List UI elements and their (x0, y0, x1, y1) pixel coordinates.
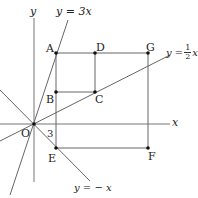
point-O (32, 122, 36, 126)
line-label-y-neg-x: y = − x (74, 183, 112, 193)
half-x-variable: x (192, 48, 198, 58)
x-axis-label: x (172, 117, 178, 128)
line-label-y-half-x: y = 1 2 x (166, 44, 198, 61)
fraction-denominator: 2 (185, 53, 190, 61)
coordinate-3-label: 3 (47, 129, 53, 139)
line-y-3x (10, 20, 68, 195)
origin-label: O (21, 128, 30, 139)
point-label-E: E (48, 153, 56, 164)
point-label-F: F (148, 151, 156, 162)
point-B (54, 90, 58, 94)
point-label-G: G (146, 42, 155, 53)
point-label-A: A (46, 43, 54, 54)
half-x-fraction: 1 2 (184, 44, 191, 61)
point-label-B: B (46, 94, 54, 105)
point-label-C: C (95, 94, 103, 105)
coordinate-diagram: y x O y = 3x y = 1 2 x y = − x A D G B C… (0, 0, 198, 198)
point-A (54, 51, 58, 55)
half-x-prefix: y = (166, 48, 183, 58)
line-y-neg-x (0, 90, 90, 181)
point-E (54, 146, 58, 150)
y-axis-label: y (30, 6, 36, 17)
line-label-y-3x: y = 3x (56, 6, 92, 17)
point-label-D: D (96, 42, 105, 53)
